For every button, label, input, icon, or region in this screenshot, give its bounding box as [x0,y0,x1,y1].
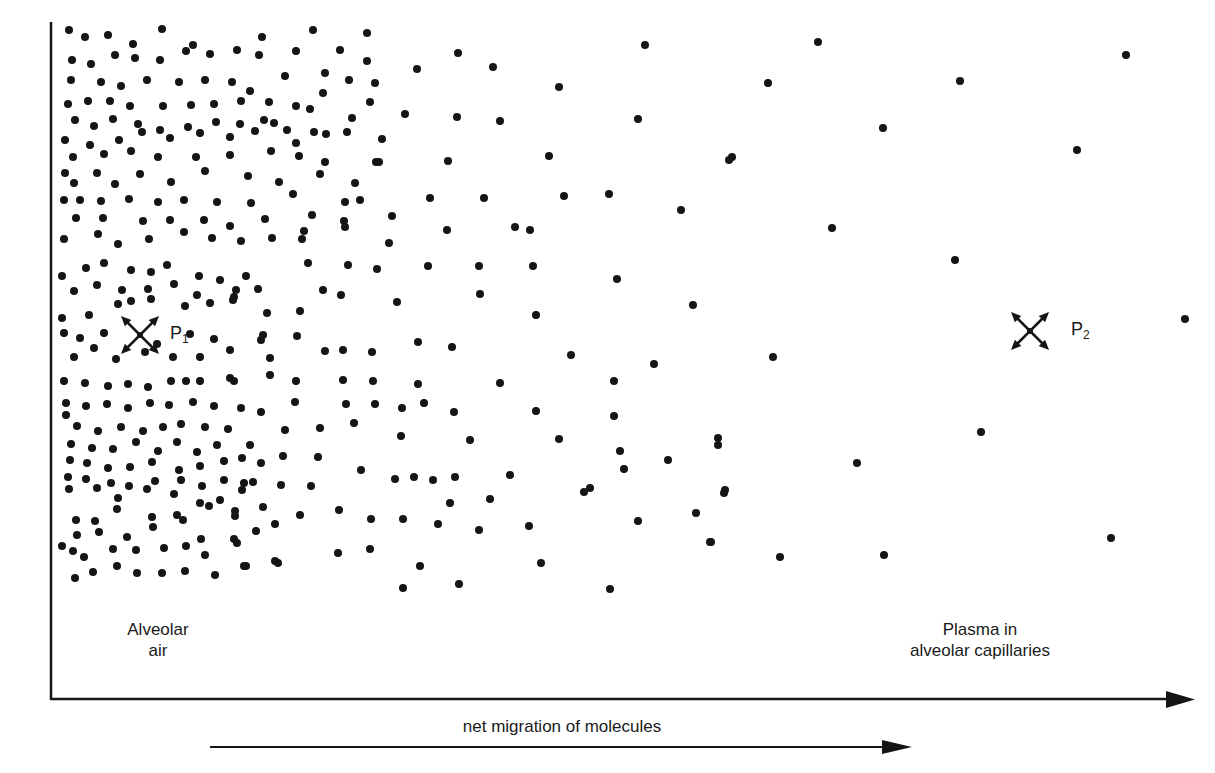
molecule-dot [375,158,383,166]
molecule-dot [416,562,424,570]
molecule-dot [71,574,79,582]
molecule-dot [267,147,275,155]
molecule-dot [68,56,76,64]
molecule-dot [141,348,149,356]
molecule-dot [555,435,563,443]
molecule-dot [634,517,642,525]
molecule-dot [295,152,303,160]
molecule-dot [132,546,140,554]
molecule-dot [210,335,218,343]
molecule-dot [426,194,434,202]
molecule-dot [532,407,540,415]
molecule-dot [476,290,484,298]
molecule-dot [187,101,195,109]
molecule-dot [182,377,190,385]
molecule-dot [341,223,349,231]
molecule-dot [94,427,102,435]
molecule-dot [254,285,262,293]
molecule-dot [555,83,563,91]
molecule-dot [337,291,345,299]
molecule-dot [270,119,278,127]
molecule-dot [205,502,213,510]
molecule-dot [158,569,166,577]
molecule-dot [127,147,135,155]
molecule-dot [163,261,171,269]
p1-subscript: 1 [182,332,189,346]
molecule-dot [154,447,162,455]
molecule-dot [165,401,173,409]
molecule-dot [366,545,374,553]
molecule-dot [610,412,618,420]
molecule-dot [229,296,237,304]
molecule-dot [158,25,166,33]
molecule-dot [113,562,121,570]
molecule-dot [1073,146,1081,154]
molecule-dot [443,226,451,234]
molecule-dot [764,79,772,87]
molecule-dot [160,544,168,552]
molecule-dot [173,438,181,446]
molecule-dot [159,102,167,110]
alveolar-air-line1: Alveolar [108,619,208,640]
molecule-dot [279,452,287,460]
molecule-dot [496,117,504,125]
molecule-dot [109,115,117,123]
molecule-dot [231,512,239,520]
molecule-dot [266,354,274,362]
molecule-dot [283,126,291,134]
molecule-dot [238,486,246,494]
molecule-dot [167,377,175,385]
molecule-dot [268,234,276,242]
molecule-dot [1122,51,1130,59]
molecule-dot [100,329,108,337]
molecule-dot [201,76,209,84]
molecule-dot [343,128,351,136]
molecule-dot [206,50,214,58]
molecule-dot [246,441,254,449]
molecule-dot [339,346,347,354]
molecule-dot [1181,315,1189,323]
molecule-dot [650,360,658,368]
molecule-dot [300,227,308,235]
molecule-dot [210,402,218,410]
molecule-dot [85,311,93,319]
molecule-dot [107,479,115,487]
molecule-dot [366,98,374,106]
molecule-dot [109,545,117,553]
molecule-dot [496,379,504,387]
molecule-dot [193,448,201,456]
molecule-dot [414,380,422,388]
molecule-dot [451,473,459,481]
molecule-dot [100,150,108,158]
molecule-dot [616,447,624,455]
molecule-dot [271,557,279,565]
molecule-dot [321,69,329,77]
molecule-dot [401,110,409,118]
molecule-dot [154,153,162,161]
molecule-dot [88,444,96,452]
molecule-dot [169,353,177,361]
molecule-dot [117,423,125,431]
molecule-dot [58,314,66,322]
molecule-dot [65,26,73,34]
alveolar-air-label: Alveolar air [108,619,208,661]
molecule-dot [298,235,306,243]
molecule-dot [634,115,642,123]
molecule-dot [201,551,209,559]
molecule-dot [321,158,329,166]
molecule-dot [506,471,514,479]
molecule-dot [397,432,405,440]
molecule-dot [251,127,259,135]
molecule-dot [334,549,342,557]
molecule-dot [90,122,98,130]
molecule-dot [206,299,214,307]
x-axis-arrowhead-icon [1166,691,1195,708]
molecule-dot [90,344,98,352]
molecule-dot [814,38,822,46]
molecule-dot [252,527,260,535]
molecule-dot [260,116,268,124]
molecule-dot [70,287,78,295]
molecule-dot [455,580,463,588]
molecule-dot [424,262,432,270]
molecule-dot [73,422,81,430]
